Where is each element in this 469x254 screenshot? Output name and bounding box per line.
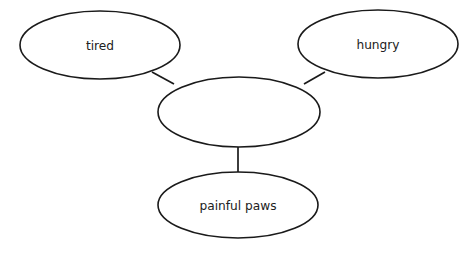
diagram-canvas-svg: tired hungry painful paws [0, 0, 469, 254]
edge-center-to-hungry [304, 72, 325, 84]
node-painful-paws-label: painful paws [199, 199, 276, 213]
node-tired[interactable]: tired [20, 11, 180, 79]
concept-map-diagram: tired hungry painful paws [0, 0, 469, 254]
edge-tired-to-center [152, 72, 174, 84]
node-tired-label: tired [86, 39, 114, 53]
node-center-hub[interactable] [158, 77, 320, 147]
node-hungry-label: hungry [356, 38, 399, 52]
node-hungry[interactable]: hungry [298, 10, 458, 78]
node-painful-paws[interactable]: painful paws [158, 172, 318, 238]
node-center-hub-ellipse[interactable] [158, 77, 320, 147]
